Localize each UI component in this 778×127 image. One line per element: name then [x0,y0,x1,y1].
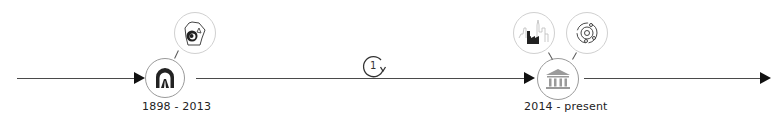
museum-icon [545,68,571,90]
step-marker: 1 [361,54,389,80]
satellite-map-location [174,12,216,54]
satellite-city-factory [513,12,555,54]
map-location-icon [180,18,210,48]
step-number: 1 [370,60,376,71]
connector-line [548,52,553,59]
connector-line [174,50,179,59]
period-node-1898-2013 [145,58,185,98]
period-label: 2014 - present [524,100,608,113]
arrow-head-icon [524,72,535,84]
connector-line [572,52,577,59]
period-label: 1898 - 2013 [142,100,211,113]
tunnel-icon [153,66,177,90]
satellite-network-orbit [566,12,608,54]
city-factory-icon [517,18,551,48]
arrow-head-icon [134,72,145,84]
period-node-2014-present [537,58,579,100]
arrow-head-icon [760,72,771,84]
timeline-segment-end [584,78,760,79]
timeline-segment-start [17,78,141,79]
network-orbit-icon [574,20,600,46]
